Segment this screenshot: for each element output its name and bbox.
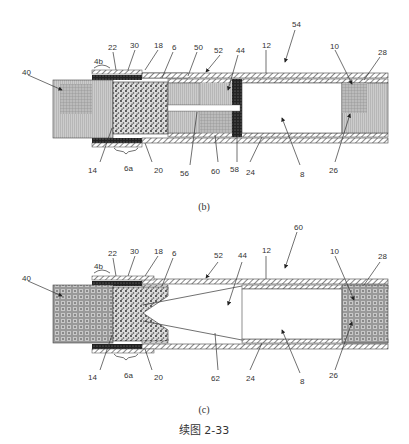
patent-figure: 40 4b 22 30 18 6 50 52 44 12 54 10 28 14… — [0, 0, 409, 444]
caption-b: (b) — [198, 201, 210, 213]
label-24: 24 — [246, 168, 255, 177]
label-62: 62 — [211, 374, 220, 383]
label-44: 44 — [238, 251, 247, 260]
label-4b: 4b — [94, 262, 103, 271]
label-30: 30 — [130, 247, 139, 256]
label-28: 28 — [378, 48, 387, 57]
label-28: 28 — [378, 252, 387, 261]
label-52: 52 — [214, 46, 223, 55]
label-54: 54 — [292, 20, 301, 29]
label-18: 18 — [154, 247, 163, 256]
label-10: 10 — [330, 42, 339, 51]
label-20: 20 — [154, 166, 163, 175]
label-40: 40 — [22, 68, 31, 77]
label-8: 8 — [300, 377, 305, 386]
label-6a: 6a — [124, 164, 133, 173]
label-60: 60 — [294, 223, 303, 232]
label-60: 60 — [211, 167, 220, 176]
label-44: 44 — [236, 46, 245, 55]
panel-c: 40 4b 22 30 18 6 52 44 12 60 10 28 14 6a… — [22, 223, 388, 416]
panel-b: 40 4b 22 30 18 6 50 52 44 12 54 10 28 14… — [22, 20, 388, 213]
figure-title: 续图 2-33 — [179, 423, 229, 437]
label-4b: 4b — [94, 57, 103, 66]
label-26: 26 — [329, 166, 338, 175]
label-18: 18 — [154, 41, 163, 50]
label-12: 12 — [262, 41, 271, 50]
label-8: 8 — [300, 170, 305, 179]
label-6a: 6a — [124, 371, 133, 380]
label-6: 6 — [172, 249, 177, 258]
label-22: 22 — [108, 249, 117, 258]
label-24: 24 — [246, 374, 255, 383]
label-58: 58 — [230, 165, 239, 174]
label-52: 52 — [214, 251, 223, 260]
label-14: 14 — [88, 166, 97, 175]
label-22: 22 — [108, 43, 117, 52]
label-14: 14 — [88, 373, 97, 382]
label-26: 26 — [329, 371, 338, 380]
label-10: 10 — [330, 247, 339, 256]
label-50: 50 — [194, 43, 203, 52]
label-6: 6 — [172, 43, 177, 52]
label-56: 56 — [180, 169, 189, 178]
label-12: 12 — [262, 246, 271, 255]
label-40: 40 — [22, 274, 31, 283]
caption-c: (c) — [198, 404, 209, 416]
label-20: 20 — [154, 373, 163, 382]
label-30: 30 — [130, 41, 139, 50]
